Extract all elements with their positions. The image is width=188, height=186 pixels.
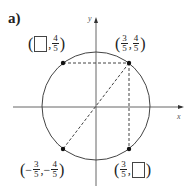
point-label-q2: ( , 45 ) xyxy=(28,34,65,53)
fraction: 45 xyxy=(133,34,140,53)
point-q1 xyxy=(127,61,131,65)
point-label-q1: ( 35 , 45 ) xyxy=(115,34,146,53)
unit-circle-diagram xyxy=(0,0,188,186)
x-axis-arrow-icon xyxy=(178,105,184,109)
answer-box-x[interactable] xyxy=(34,36,47,52)
answer-box-y[interactable] xyxy=(132,162,145,178)
point-label-q4: ( 35 , ) xyxy=(114,160,151,179)
y-axis-arrow-icon xyxy=(94,17,98,23)
point-q2 xyxy=(61,61,65,65)
point-q4 xyxy=(127,147,131,151)
x-axis-label: x xyxy=(177,112,181,121)
point-label-q3: ( − 35 , − 45 ) xyxy=(20,160,64,179)
fraction: 35 xyxy=(120,160,127,179)
fraction: 35 xyxy=(33,160,40,179)
y-axis-label: y xyxy=(88,14,92,23)
fraction: 35 xyxy=(121,34,128,53)
point-q3 xyxy=(61,147,65,151)
fraction: 45 xyxy=(52,34,59,53)
fraction: 45 xyxy=(51,160,58,179)
